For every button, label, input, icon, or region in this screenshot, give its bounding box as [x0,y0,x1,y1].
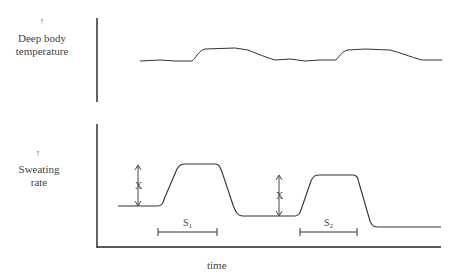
s2-label: S2 [324,217,334,230]
diagram-svg: X X S1 S2 time [0,0,457,278]
s1-label: S1 [183,217,193,230]
s1-label-sub: 1 [189,222,193,230]
x-label-2: X [276,190,284,201]
x-axis-label: time [207,259,227,271]
s2-label-sub: 2 [330,222,334,230]
s2-bracket [300,228,357,236]
x-label-1: X [135,180,143,191]
s1-bracket [158,228,217,236]
temperature-curve [140,48,442,61]
